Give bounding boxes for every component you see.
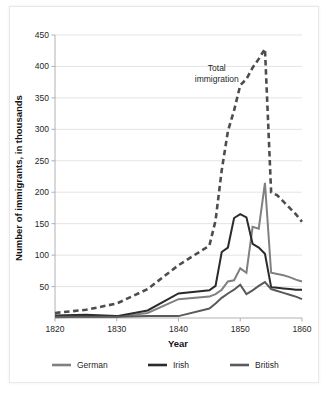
series-line-total-immigration — [55, 49, 302, 313]
chart-page: 50100150200250300350400450 1820183018401… — [0, 0, 332, 393]
series-line-irish — [55, 214, 302, 316]
series-line-german — [55, 183, 302, 318]
x-tick-label: 1840 — [169, 324, 188, 334]
y-tick-label: 400 — [35, 61, 49, 71]
x-tick-label: 1830 — [107, 324, 126, 334]
y-tick-label: 250 — [35, 156, 49, 166]
y-tick-label: 150 — [35, 219, 49, 229]
legend-label-british: British — [255, 360, 279, 370]
annotation-line-1: Total — [208, 63, 226, 73]
y-tick-label: 300 — [35, 124, 49, 134]
legend-label-german: German — [77, 360, 108, 370]
annotation-line-2: immigration — [195, 74, 239, 84]
chart-svg: 50100150200250300350400450 1820183018401… — [0, 0, 332, 393]
chart-legend: GermanIrishBritish — [52, 360, 279, 370]
x-tick-label: 1860 — [293, 324, 312, 334]
y-axis-title: Number of immigrants, in thousands — [13, 95, 24, 261]
x-tick-label: 1820 — [46, 324, 65, 334]
y-tick-label: 50 — [40, 282, 50, 292]
chart-axes — [52, 35, 303, 322]
y-axis-tick-labels: 50100150200250300350400450 — [35, 30, 49, 292]
immigration-line-chart: 50100150200250300350400450 1820183018401… — [0, 0, 332, 393]
x-axis-tick-labels: 18201830184018501860 — [46, 324, 312, 334]
x-tick-label: 1850 — [231, 324, 250, 334]
legend-label-irish: Irish — [173, 360, 189, 370]
y-tick-label: 450 — [35, 30, 49, 40]
y-tick-label: 350 — [35, 93, 49, 103]
data-series-lines — [55, 49, 302, 318]
x-axis-title: Year — [168, 338, 188, 349]
y-tick-label: 100 — [35, 250, 49, 260]
y-tick-label: 200 — [35, 187, 49, 197]
